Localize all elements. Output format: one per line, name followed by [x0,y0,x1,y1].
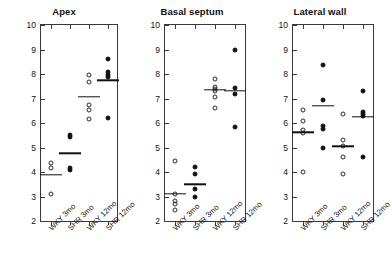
y-axis-tick-label: 7 [283,94,288,104]
data-point [86,102,91,107]
data-point [105,115,110,120]
x-axis-tick-top [363,25,364,29]
data-point [321,63,326,68]
group-mean-bar [184,184,206,185]
data-point [67,135,72,140]
y-axis-tick [41,197,45,198]
data-point [301,169,306,174]
y-axis-tick [41,221,45,222]
y-axis-tick-label: 3 [31,192,36,202]
data-point [48,165,53,170]
y-axis-tick-label: 10 [151,20,160,30]
y-axis-tick [41,50,45,51]
x-axis-tick-top [343,25,344,29]
data-point [321,97,326,102]
y-axis-tick [165,25,169,26]
data-point [341,111,346,116]
y-axis-tick [41,172,45,173]
y-axis-tick [41,123,45,124]
data-point [193,172,198,177]
data-point [67,168,72,173]
plot-inner: 2345678910 [293,25,373,221]
y-axis-tick [165,50,169,51]
data-point [173,202,178,207]
x-axis-tick-top [215,25,216,29]
y-axis-tick [293,172,297,173]
y-axis-tick [165,123,169,124]
data-point [48,191,53,196]
data-point [341,154,346,159]
y-axis-tick-label: 6 [155,118,160,128]
y-axis-tick [41,25,45,26]
y-axis-tick-label: 2 [283,216,288,226]
y-axis-tick-label: 8 [283,69,288,79]
y-axis-tick-label: 5 [155,143,160,153]
plot-area: 2345678910 [164,24,246,222]
group-mean-bar [332,146,354,147]
data-point [193,164,198,169]
y-axis-tick [165,221,169,222]
data-point [301,118,306,123]
y-axis-tick-label: 5 [31,143,36,153]
y-axis-tick-label: 7 [155,94,160,104]
y-axis-tick-label: 2 [155,216,160,226]
panel-lateral-wall: Lateral wall 2345678910 WKY 3moSHR 3moWK… [256,0,384,280]
group-mean-bar [59,152,81,153]
plot-area: 2345678910 [292,24,374,222]
data-point [213,94,218,99]
data-point [213,77,218,82]
x-axis-tick-top [235,25,236,29]
y-axis-tick-label: 3 [155,192,160,202]
x-axis-tick-top [70,25,71,29]
x-axis-tick-top [89,25,90,29]
y-axis-tick [293,99,297,100]
y-axis-tick-label: 3 [283,192,288,202]
data-point [86,116,91,121]
y-axis-tick-label: 4 [283,167,288,177]
group-mean-bar [164,193,186,194]
y-axis-tick-label: 4 [155,167,160,177]
x-axis-tick-top [303,25,304,29]
y-axis-tick [293,148,297,149]
x-axis-tick-top [323,25,324,29]
data-point [321,145,326,150]
group-mean-bar [224,90,246,91]
y-axis-tick-label: 2 [31,216,36,226]
group-mean-bar [352,116,374,117]
y-axis-tick [293,123,297,124]
data-point [341,137,346,142]
y-axis-tick [293,25,297,26]
x-axis-tick-top [195,25,196,29]
y-axis-tick-label: 10 [27,20,36,30]
x-axis-tick-top [51,25,52,29]
y-axis-tick [293,221,297,222]
group-mean-bar [292,132,314,133]
data-point [86,73,91,78]
panel-basal-septum: Basal septum 2345678910 WKY 3moSHR 3moWK… [128,0,256,280]
y-axis-tick [165,99,169,100]
data-point [105,57,110,62]
y-axis-tick-label: 9 [155,45,160,55]
x-axis-tick-top [108,25,109,29]
data-point [173,207,178,212]
data-point [86,108,91,113]
data-point [341,171,346,176]
y-axis-tick-label: 8 [155,69,160,79]
group-mean-bar [40,174,62,175]
y-axis-tick [293,74,297,75]
y-axis-tick-label: 6 [283,118,288,128]
y-axis-tick-label: 9 [31,45,36,55]
group-mean-bar [312,105,334,106]
y-axis-tick [293,50,297,51]
panel-apex: Apex 2345678910 WKY 3moSHR 3moWKY 12moSH… [0,0,128,280]
panel-title: Basal septum [128,6,256,17]
data-point [233,92,238,97]
y-axis-tick [165,74,169,75]
y-axis-tick [165,172,169,173]
data-point [193,194,198,199]
panel-title: Lateral wall [256,6,384,17]
y-axis-tick-label: 6 [31,118,36,128]
plot-area: 2345678910 [40,24,118,222]
data-point [361,154,366,159]
